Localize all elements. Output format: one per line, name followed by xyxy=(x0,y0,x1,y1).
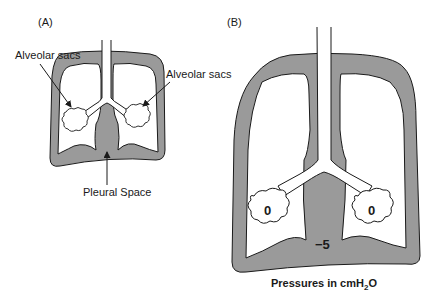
panel-a-sac-label-left: Alveolar sacs xyxy=(15,49,81,61)
panel-a-label: (A) xyxy=(38,16,53,28)
panel-a-pleural-label: Pleural Space xyxy=(83,186,152,198)
caption-suffix: O xyxy=(368,277,377,289)
panel-a: (A) Alveolar sacs Alveolar sacs Pleural … xyxy=(15,16,232,198)
panel-b-pressure-right: 0 xyxy=(368,203,375,218)
diagram-canvas: (A) Alveolar sacs Alveolar sacs Pleural … xyxy=(0,0,440,304)
caption-prefix: Pressures in cmH xyxy=(271,277,364,289)
panel-b-left-lung xyxy=(246,74,310,258)
panel-b-label: (B) xyxy=(227,16,242,28)
panel-a-sac-label-right: Alveolar sacs xyxy=(166,68,232,80)
panel-b-pressure-left: 0 xyxy=(264,203,271,218)
panel-b: (B) 0 0 −5 Pressures in cmH2O xyxy=(227,16,420,292)
panel-b-pressure-pleural: −5 xyxy=(315,237,330,252)
panel-b-caption: Pressures in cmH2O xyxy=(271,277,377,292)
